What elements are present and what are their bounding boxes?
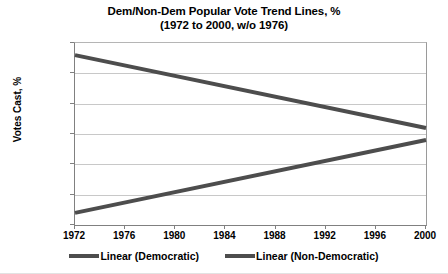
trend-lines	[75, 43, 426, 225]
chart-container: Dem/Non-Dem Popular Vote Trend Lines, % …	[0, 0, 448, 274]
legend-item[interactable]: Linear (Non-Democratic)	[225, 250, 379, 262]
legend-label: Linear (Democratic)	[100, 250, 199, 262]
legend-swatch	[69, 254, 99, 258]
trend-line	[75, 140, 426, 213]
plot-area	[74, 42, 427, 226]
legend-label: Linear (Non-Democratic)	[256, 250, 379, 262]
chart-title-line1: Dem/Non-Dem Popular Vote Trend Lines, %	[108, 5, 341, 17]
legend-swatch	[225, 254, 255, 258]
chart-title: Dem/Non-Dem Popular Vote Trend Lines, % …	[0, 4, 448, 32]
chart-legend: Linear (Democratic)Linear (Non-Democrati…	[0, 250, 448, 262]
y-axis-title: Votes Cast, %	[12, 60, 23, 160]
chart-subtitle: (1972 to 2000, w/o 1976)	[0, 18, 448, 32]
legend-item[interactable]: Linear (Democratic)	[69, 250, 199, 262]
trend-line	[75, 55, 426, 128]
x-tick-label: 2000	[395, 230, 448, 241]
